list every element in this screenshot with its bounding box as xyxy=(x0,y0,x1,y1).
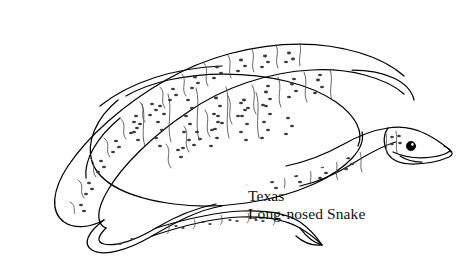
head-speckles xyxy=(390,135,402,145)
caption-line-2: Long-nosed Snake xyxy=(248,205,365,223)
snake-eye-highlight xyxy=(411,143,414,146)
caption-block: Texas Long-nosed Snake xyxy=(248,187,365,222)
illustration-canvas: Texas Long-nosed Snake xyxy=(0,0,460,269)
snake-head xyxy=(384,127,452,164)
caption-line-1: Texas xyxy=(248,187,365,205)
snake-line-drawing xyxy=(0,0,460,269)
snake-left-arc xyxy=(87,204,222,253)
snake-neck xyxy=(286,128,396,186)
snake-eye-icon xyxy=(406,141,415,150)
tail-speckles xyxy=(118,219,264,245)
mid-coil-bands xyxy=(166,70,332,168)
